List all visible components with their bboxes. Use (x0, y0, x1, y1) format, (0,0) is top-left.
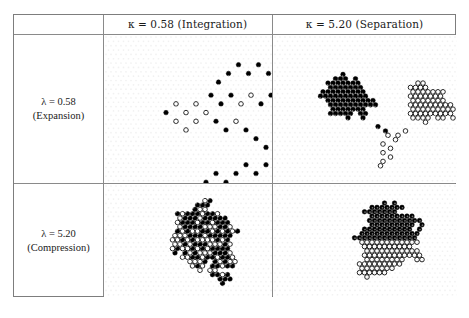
row-header-expansion-line2: (Expansion) (33, 109, 84, 123)
column-header-integration: κ = 0.58 (Integration) (103, 15, 272, 34)
column-header-separation: κ = 5.20 (Separation) (272, 15, 457, 34)
table-corner-cell (14, 15, 103, 34)
row-header-compression-line2: (Compression) (27, 241, 89, 255)
agent-plot-compression-separation (273, 184, 457, 297)
agent-plot-expansion-integration (104, 35, 272, 183)
panel-expansion-separation (273, 35, 457, 183)
column-header-separation-label: κ = 5.20 (Separation) (306, 18, 423, 30)
row-header-expansion: λ = 0.58 (Expansion) (14, 35, 103, 183)
row-header-compression-line1: λ = 5.20 (41, 227, 76, 241)
figure-root: κ = 0.58 (Integration) κ = 5.20 (Separat… (0, 0, 469, 318)
row-header-expansion-line1: λ = 0.58 (41, 95, 76, 109)
panel-expansion-integration (104, 35, 272, 183)
column-header-integration-label: κ = 0.58 (Integration) (128, 18, 247, 30)
agent-plot-compression-integration (104, 184, 272, 297)
results-table: κ = 0.58 (Integration) κ = 5.20 (Separat… (13, 14, 456, 297)
panel-compression-separation (273, 184, 457, 297)
agent-plot-expansion-separation (273, 35, 457, 183)
row-header-compression: λ = 5.20 (Compression) (14, 184, 103, 297)
panel-compression-integration (104, 184, 272, 297)
